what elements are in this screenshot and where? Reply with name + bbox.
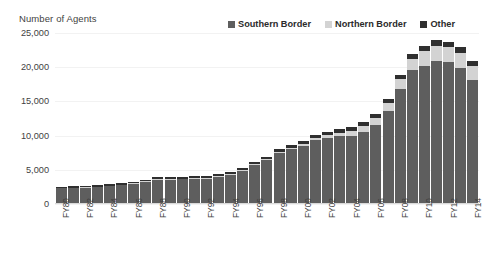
bar-segment-southern-border	[407, 70, 418, 203]
x-axis-tick-cell: FY02	[322, 206, 333, 256]
bar-column[interactable]	[407, 33, 418, 203]
bar-column[interactable]	[419, 33, 430, 203]
x-axis-tick-cell	[358, 206, 369, 256]
bar-segment-southern-border	[395, 89, 406, 203]
y-axis-tick-label: 15,000	[21, 96, 49, 106]
x-axis-tick-cell	[237, 206, 248, 256]
bar-column[interactable]	[395, 33, 406, 203]
bar-segment-southern-border	[467, 80, 478, 203]
bar-column[interactable]	[274, 33, 285, 203]
bar-column[interactable]	[68, 33, 79, 203]
legend-swatch-northern-border	[325, 21, 332, 28]
bar-column[interactable]	[286, 33, 297, 203]
bar-column[interactable]	[213, 33, 224, 203]
bar-segment-southern-border	[261, 160, 272, 203]
bar-column[interactable]	[201, 33, 212, 203]
y-axis-tick-label: 25,000	[21, 28, 49, 38]
x-axis-tick-cell: FY14	[467, 206, 478, 256]
legend-item-northern-border[interactable]: Northern Border	[325, 19, 406, 29]
bar-column[interactable]	[431, 33, 442, 203]
bar-column[interactable]	[443, 33, 454, 203]
x-axis-tick-cell	[213, 206, 224, 256]
x-axis-tick-cell	[261, 206, 272, 256]
bar-column[interactable]	[92, 33, 103, 203]
bar-segment-northern-border	[419, 51, 430, 66]
bar-column[interactable]	[177, 33, 188, 203]
x-axis-tick-cell: FY06	[370, 206, 381, 256]
legend-label-southern-border: Southern Border	[238, 19, 311, 29]
y-axis-tick-label: 20,000	[21, 62, 49, 72]
x-axis-tick-label: FY14	[473, 198, 483, 218]
bar-column[interactable]	[104, 33, 115, 203]
bar-segment-southern-border	[443, 62, 454, 203]
x-axis-tick-cell	[455, 206, 466, 256]
bar-segment-southern-border	[370, 125, 381, 203]
x-axis-tick-cell: FY92	[201, 206, 212, 256]
bar-column[interactable]	[80, 33, 91, 203]
y-axis-tick-label: 0	[44, 199, 49, 209]
x-axis-tick-cell: FY94	[225, 206, 236, 256]
bar-segment-southern-border	[334, 136, 345, 203]
bar-column[interactable]	[358, 33, 369, 203]
bar-segment-southern-border	[346, 136, 357, 203]
bar-column[interactable]	[249, 33, 260, 203]
legend-swatch-southern-border	[228, 21, 235, 28]
x-axis-tick-cell	[116, 206, 127, 256]
bar-segment-northern-border	[383, 103, 394, 110]
x-axis-tick-cell	[92, 206, 103, 256]
x-axis-tick-cell	[68, 206, 79, 256]
bar-segment-southern-border	[455, 68, 466, 203]
bar-column[interactable]	[225, 33, 236, 203]
bar-column[interactable]	[152, 33, 163, 203]
x-axis-tick-cell	[310, 206, 321, 256]
x-axis-tick-cell: FY98	[274, 206, 285, 256]
bar-segment-southern-border	[310, 140, 321, 203]
bar-segment-southern-border	[322, 138, 333, 203]
x-axis-tick-cell	[383, 206, 394, 256]
stacked-bar-chart: Number of Agents Southern Border Norther…	[0, 0, 489, 258]
bar-column[interactable]	[140, 33, 151, 203]
legend-item-other[interactable]: Other	[420, 19, 455, 29]
bar-column[interactable]	[261, 33, 272, 203]
bar-segment-southern-border	[298, 146, 309, 203]
x-axis-tick-cell	[334, 206, 345, 256]
bar-segment-northern-border	[395, 79, 406, 89]
legend-item-southern-border[interactable]: Southern Border	[228, 19, 311, 29]
bar-segment-southern-border	[274, 153, 285, 203]
bar-segment-northern-border	[431, 46, 442, 61]
chart-legend: Southern Border Northern Border Other	[228, 19, 455, 29]
plot-area: 25,00020,00015,00010,0005,0000	[55, 33, 479, 204]
x-axis-tick-cell	[286, 206, 297, 256]
bar-column[interactable]	[322, 33, 333, 203]
y-axis-title: Number of Agents	[19, 13, 97, 24]
bar-column[interactable]	[310, 33, 321, 203]
bar-segment-northern-border	[443, 47, 454, 62]
bar-column[interactable]	[189, 33, 200, 203]
bar-column[interactable]	[455, 33, 466, 203]
bar-column[interactable]	[56, 33, 67, 203]
x-axis-tick-cell: FY86	[128, 206, 139, 256]
x-axis-tick-cell: FY90	[177, 206, 188, 256]
bar-column[interactable]	[128, 33, 139, 203]
x-axis-tick-cell: FY96	[249, 206, 260, 256]
bar-column[interactable]	[165, 33, 176, 203]
x-axis-tick-cell: FY84	[104, 206, 115, 256]
bar-column[interactable]	[237, 33, 248, 203]
legend-swatch-other	[420, 21, 427, 28]
bar-column[interactable]	[467, 33, 478, 203]
x-axis-tick-cell: FY12	[443, 206, 454, 256]
bar-column[interactable]	[298, 33, 309, 203]
x-axis-tick-cell: FY88	[152, 206, 163, 256]
x-axis-tick-cell	[189, 206, 200, 256]
x-axis-tick-cell: FY04	[346, 206, 357, 256]
x-axis-tick-cell	[431, 206, 442, 256]
bar-segment-southern-border	[431, 61, 442, 203]
bar-column[interactable]	[346, 33, 357, 203]
bar-column[interactable]	[334, 33, 345, 203]
y-axis-tick-label: 5,000	[26, 165, 49, 175]
bar-column[interactable]	[370, 33, 381, 203]
bar-column[interactable]	[116, 33, 127, 203]
y-axis-tick-label: 10,000	[21, 131, 49, 141]
bar-column[interactable]	[383, 33, 394, 203]
x-axis-tick-cell	[407, 206, 418, 256]
